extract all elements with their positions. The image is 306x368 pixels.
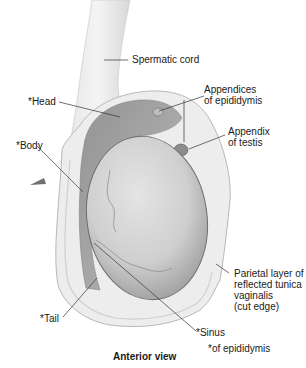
appendix-epididymis-shape (153, 108, 163, 116)
label-spermatic-cord: Spermatic cord (132, 54, 199, 65)
label-appendix-testis: Appendix of testis (228, 126, 270, 148)
view-caption: Anterior view (113, 351, 176, 362)
label-body: *Body (16, 140, 43, 151)
label-appendices-epididymis: Appendices of epididymis (204, 84, 262, 106)
label-sinus: *Sinus (196, 327, 225, 338)
label-parietal-layer: Parietal layer of reflected tunica vagin… (234, 268, 303, 312)
label-head: *Head (28, 96, 56, 107)
label-tail: *Tail (40, 313, 59, 324)
footnote-of-epididymis: *of epididymis (208, 343, 270, 354)
